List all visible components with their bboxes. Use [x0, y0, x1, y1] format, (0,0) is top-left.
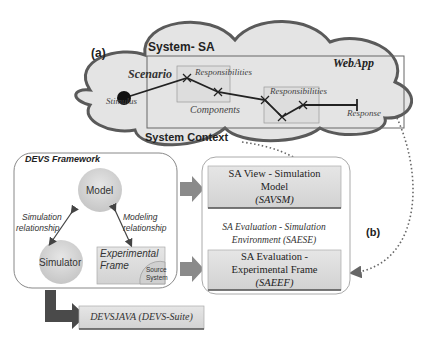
scenario-label: Scenario [128, 67, 172, 82]
source-system-label-2: System [146, 274, 168, 281]
system-cloud [76, 21, 412, 144]
saeef-line1: SA Evaluation - [208, 251, 341, 262]
components-label: Components [190, 104, 240, 115]
devs-framework-title: DEVS Framework [25, 154, 100, 164]
saeef-line2: Experimental Frame [208, 264, 341, 275]
simulator-label: Simulator [39, 257, 81, 268]
savsm-line1: SA View - Simulation [208, 168, 341, 179]
modeling-relationship-label-2: relationship [123, 223, 166, 233]
savsm-line2: Model [208, 181, 341, 192]
saeef-line3: (SAEEF) [208, 277, 341, 288]
response-label: Response [347, 108, 381, 118]
saese-line1: SA Evaluation - Simulation [204, 222, 344, 232]
saese-line2: Environment (SAESE) [204, 235, 344, 245]
model-label: Model [86, 185, 113, 196]
savsm-line3: (SAVSM) [208, 194, 341, 205]
experimental-frame-label-2: Frame [100, 260, 129, 271]
dotted-connector-saeef [352, 118, 413, 273]
devsjava-label: DEVSJAVA (DEVS-Suite) [79, 311, 204, 322]
simulation-relationship-label-1: Simulation [22, 212, 62, 222]
part-b-label: (b) [366, 226, 380, 238]
experimental-frame-label-1: Experimental [100, 248, 158, 259]
part-a-label: (a) [91, 46, 106, 60]
source-system-label-1: Source [146, 266, 167, 273]
arrow-to-savsm [180, 176, 204, 202]
simulation-relationship-label-2: relationship [16, 223, 59, 233]
modeling-relationship-label-1: Modeling [123, 212, 158, 222]
cloud-title: System- SA [148, 40, 215, 54]
webapp-label: WebApp [333, 56, 374, 71]
responsibilities-label-1: Responsibilities [195, 67, 252, 77]
responsibilities-label-2: Responsibilities [270, 86, 327, 96]
system-context-label: System Context [145, 131, 228, 143]
stimulus-label: Stimulus [106, 96, 137, 106]
arrow-to-saeef [180, 256, 204, 282]
